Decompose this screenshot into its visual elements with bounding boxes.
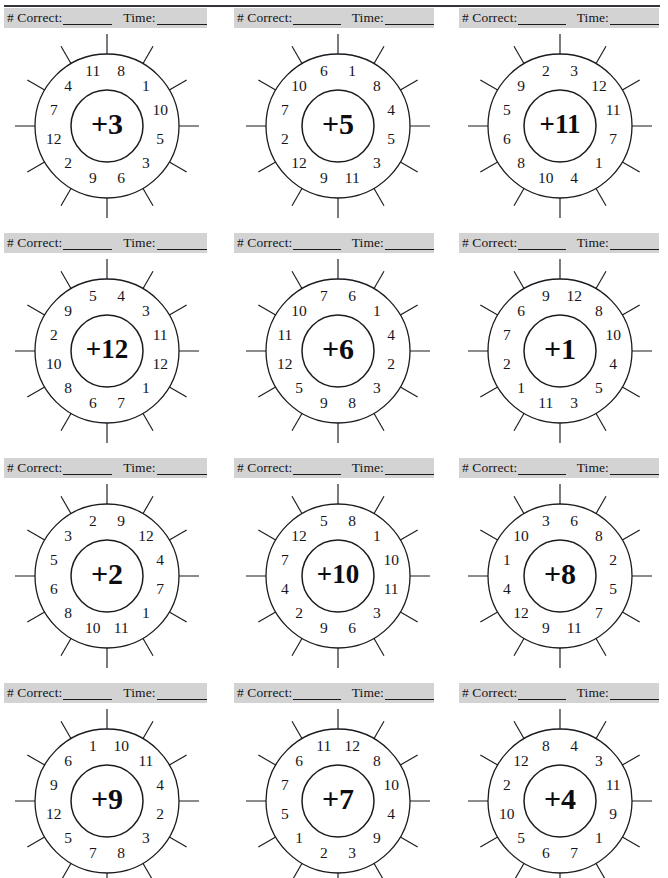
wheel-figure: 912471111086532+2 [0, 476, 230, 675]
wheel-addend: 4 [64, 77, 72, 94]
wheel-center-operator: +1 [544, 332, 576, 365]
correct-answer-blank[interactable] [63, 461, 112, 475]
correct-label: # Correct: [462, 10, 517, 26]
wheel-addend: 10 [46, 355, 62, 372]
time-answer-blank[interactable] [385, 461, 434, 475]
wheel-addend: 8 [64, 604, 72, 621]
wheel-addend: 2 [156, 805, 164, 822]
wheel-addend: 12 [152, 355, 168, 372]
wheel-addend: 9 [50, 776, 58, 793]
correct-answer-blank[interactable] [63, 686, 112, 700]
wheel-addend: 9 [609, 805, 617, 822]
wheel-addend: 4 [117, 287, 125, 304]
wheel-center-operator: +3 [91, 107, 123, 140]
wheel-addend: 11 [85, 62, 100, 79]
time-label: Time: [577, 235, 609, 251]
correct-answer-blank[interactable] [518, 461, 565, 475]
wheel-addend: 2 [320, 844, 328, 861]
wheel-addend: 8 [595, 527, 603, 544]
wheel-addend: 1 [503, 551, 511, 568]
wheel-addend: 6 [517, 302, 525, 319]
correct-answer-blank[interactable] [518, 11, 565, 25]
score-time-bar: # Correct:Time: [234, 8, 434, 28]
correct-label: # Correct: [462, 460, 517, 476]
wheel-addend: 8 [348, 394, 356, 411]
wheel-cell: # Correct:Time:614238951211107+6 [230, 225, 455, 450]
wheel-addend: 12 [513, 604, 529, 621]
wheel-addend: 3 [595, 752, 603, 769]
wheel-figure: 312117141086592+11 [455, 26, 668, 225]
wheel-addend: 3 [64, 527, 72, 544]
wheel-addend: 2 [89, 512, 97, 529]
wheel-addend: 3 [142, 829, 150, 846]
wheel-figure: 811011369247125+10 [230, 476, 455, 675]
addition-wheel: 811053692127411+3 [12, 26, 212, 225]
wheel-addend: 1 [295, 829, 303, 846]
wheel-figure: 101142387512961+9 [0, 701, 230, 878]
time-label: Time: [352, 460, 384, 476]
wheel-addend: 2 [609, 551, 617, 568]
time-answer-blank[interactable] [157, 11, 207, 25]
addition-wheel: 128104531112769+1 [465, 251, 665, 450]
wheel-center-operator: +7 [322, 782, 354, 815]
time-answer-blank[interactable] [610, 11, 659, 25]
score-time-bar: # Correct:Time: [234, 458, 434, 478]
wheel-addend: 10 [499, 805, 515, 822]
correct-answer-blank[interactable] [293, 236, 340, 250]
wheel-addend: 2 [503, 355, 511, 372]
wheel-addend: 2 [281, 130, 289, 147]
wheel-addend: 4 [570, 169, 578, 186]
wheel-addend: 6 [89, 394, 97, 411]
wheel-addend: 7 [503, 326, 511, 343]
correct-answer-blank[interactable] [293, 461, 340, 475]
correct-answer-blank[interactable] [293, 11, 340, 25]
time-answer-blank[interactable] [610, 461, 659, 475]
time-label: Time: [352, 235, 384, 251]
time-answer-blank[interactable] [385, 686, 434, 700]
wheel-addend: 6 [348, 619, 356, 636]
correct-answer-blank[interactable] [293, 686, 340, 700]
wheel-cell: # Correct:Time:184531191227106+5 [230, 0, 455, 225]
addition-wheel: 184531191227106+5 [243, 26, 443, 225]
wheel-cell: # Correct:Time:101142387512961+9 [0, 675, 230, 878]
wheel-addend: 12 [46, 805, 62, 822]
wheel-addend: 6 [348, 287, 356, 304]
wheel-addend: 6 [117, 169, 125, 186]
wheel-addend: 12 [291, 527, 307, 544]
wheel-addend: 1 [595, 154, 603, 171]
correct-label: # Correct: [7, 235, 62, 251]
wheel-addend: 12 [344, 737, 360, 754]
wheel-addend: 4 [387, 101, 395, 118]
time-label: Time: [123, 685, 155, 701]
wheel-addend: 10 [152, 101, 168, 118]
wheel-addend: 8 [64, 379, 72, 396]
time-answer-blank[interactable] [385, 11, 434, 25]
time-answer-blank[interactable] [610, 236, 659, 250]
correct-answer-blank[interactable] [518, 236, 565, 250]
correct-label: # Correct: [7, 460, 62, 476]
wheel-cell: # Correct:Time:811053692127411+3 [0, 0, 230, 225]
wheel-addend: 1 [348, 62, 356, 79]
wheel-addend: 11 [384, 580, 399, 597]
wheel-addend: 10 [113, 737, 129, 754]
correct-answer-blank[interactable] [518, 686, 565, 700]
correct-label: # Correct: [237, 685, 292, 701]
wheel-center-operator: +11 [540, 109, 581, 139]
wheel-addend: 11 [538, 394, 553, 411]
wheel-addend: 9 [517, 77, 525, 94]
wheel-addend: 7 [281, 776, 289, 793]
addition-wheel: 312117141086592+11 [465, 26, 665, 225]
time-answer-blank[interactable] [157, 236, 207, 250]
wheel-addend: 5 [517, 829, 525, 846]
wheel-cell: # Correct:Time:431191765102128+4 [455, 675, 668, 878]
time-answer-blank[interactable] [385, 236, 434, 250]
wheel-addend: 6 [542, 844, 550, 861]
correct-answer-blank[interactable] [63, 236, 112, 250]
wheel-addend: 11 [316, 737, 331, 754]
time-answer-blank[interactable] [157, 686, 207, 700]
time-answer-blank[interactable] [157, 461, 207, 475]
correct-answer-blank[interactable] [63, 11, 112, 25]
wheel-cell: # Correct:Time:128104531112769+1 [455, 225, 668, 450]
time-answer-blank[interactable] [610, 686, 659, 700]
wheel-addend: 4 [503, 580, 511, 597]
